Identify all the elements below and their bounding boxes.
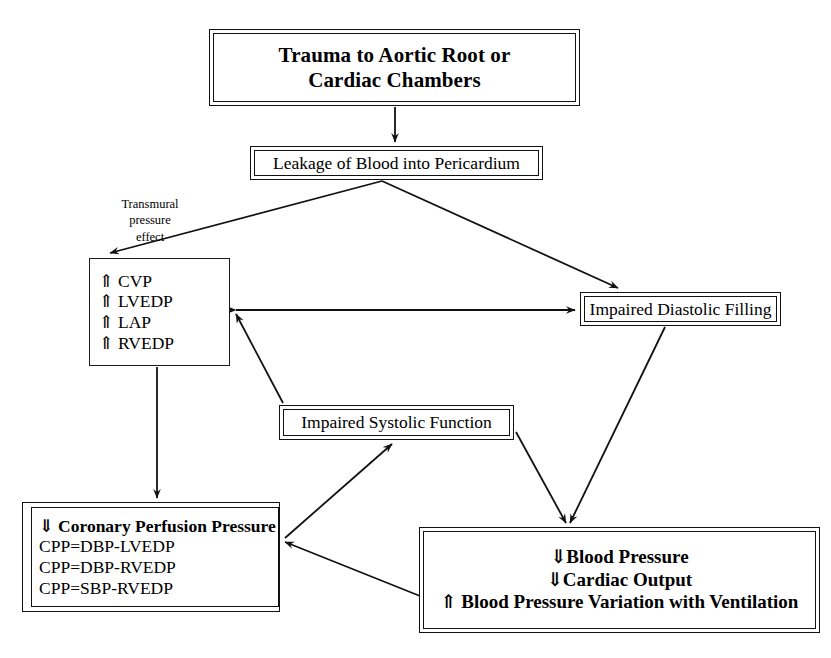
node-leakage-of-blood: Leakage of Blood into Pericardium: [250, 146, 543, 180]
edge-systolic-to-outcome: [516, 432, 566, 523]
node-impaired-systolic-function: Impaired Systolic Function: [279, 405, 514, 440]
node-cpp-line-3: CPP=DBP-RVEDP: [39, 557, 278, 578]
node-diastolic-line-1: Impaired Diastolic Filling: [585, 299, 776, 320]
label-transmural-line-1: Transmural: [94, 196, 206, 212]
node-pressures-line-3: ⇑ LAP: [99, 312, 229, 333]
node-trauma-to-aortic-root: Trauma to Aortic Root or Cardiac Chamber…: [209, 29, 580, 106]
node-pressures-line-2: ⇑ LVEDP: [99, 291, 229, 312]
node-systolic-line-1: Impaired Systolic Function: [284, 412, 509, 433]
node-outcome-line-3: ⇑ Blood Pressure Variation with Ventilat…: [424, 591, 815, 613]
flowchart-canvas: Trauma to Aortic Root or Cardiac Chamber…: [0, 0, 831, 658]
node-coronary-perfusion-pressure: ⇓ Coronary Perfusion Pressure CPP=DBP-LV…: [22, 502, 280, 612]
edge-outcome-to-cpp: [285, 542, 420, 596]
edge-systolic-to-pressures: [236, 314, 283, 403]
node-hemodynamic-outcome: ⇓Blood Pressure ⇓Cardiac Output ⇑ Blood …: [419, 527, 820, 633]
node-cpp-line-1: ⇓ Coronary Perfusion Pressure: [39, 516, 278, 537]
node-pressures-line-4: ⇑ RVEDP: [99, 333, 229, 354]
label-transmural-line-2: pressure: [94, 212, 206, 228]
label-transmural-line-3: effect: [94, 229, 206, 245]
node-leakage-line-1: Leakage of Blood into Pericardium: [255, 153, 538, 174]
node-trauma-line-1: Trauma to Aortic Root or: [214, 43, 575, 68]
edge-diastolic-to-outcome: [570, 327, 665, 523]
node-cpp-line-2: CPP=DBP-LVEDP: [39, 536, 278, 557]
node-trauma-line-2: Cardiac Chambers: [214, 68, 575, 93]
node-outcome-line-2: ⇓Cardiac Output: [424, 569, 815, 591]
edge-cpp-to-systolic: [285, 444, 392, 538]
node-pressures-line-1: ⇑ CVP: [99, 271, 229, 292]
node-cpp-line-4: CPP=SBP-RVEDP: [39, 578, 278, 599]
edge-leakage-to-diastolic: [382, 181, 618, 288]
node-outcome-line-1: ⇓Blood Pressure: [424, 546, 815, 568]
node-elevated-pressures: ⇑ CVP ⇑ LVEDP ⇑ LAP ⇑ RVEDP: [89, 258, 230, 366]
node-impaired-diastolic-filling: Impaired Diastolic Filling: [580, 292, 781, 326]
label-transmural-pressure-effect: Transmural pressure effect: [94, 196, 206, 245]
